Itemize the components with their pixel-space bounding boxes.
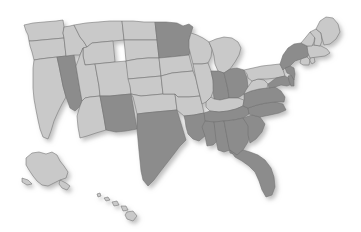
state-MO[interactable] bbox=[161, 71, 200, 97]
state-AK[interactable] bbox=[22, 152, 70, 190]
state-NE[interactable] bbox=[126, 58, 161, 79]
state-MN[interactable] bbox=[155, 22, 193, 58]
states-layer bbox=[22, 17, 340, 221]
state-AR[interactable] bbox=[175, 94, 204, 116]
state-MI[interactable] bbox=[209, 37, 241, 73]
state-WA[interactable] bbox=[24, 20, 64, 41]
state-TX[interactable] bbox=[137, 110, 186, 186]
state-NY[interactable] bbox=[280, 43, 311, 70]
state-CO[interactable] bbox=[95, 61, 131, 96]
state-FL[interactable] bbox=[230, 150, 275, 197]
state-ND[interactable] bbox=[122, 21, 157, 40]
state-HI[interactable] bbox=[97, 193, 137, 221]
state-KS[interactable] bbox=[128, 76, 163, 96]
state-WI[interactable] bbox=[189, 33, 212, 64]
state-MA[interactable] bbox=[307, 45, 330, 58]
us-map-container bbox=[0, 0, 361, 232]
state-NM[interactable] bbox=[100, 94, 137, 132]
us-choropleth-map[interactable] bbox=[0, 0, 361, 232]
